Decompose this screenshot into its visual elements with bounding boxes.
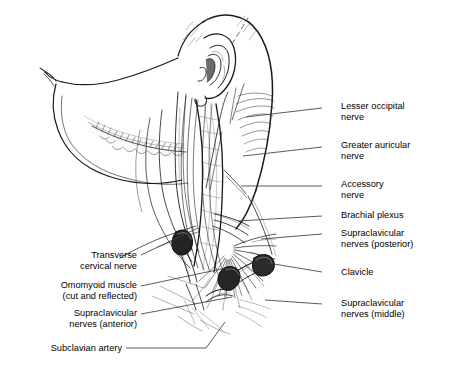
label-line: Lesser occipital	[341, 101, 405, 111]
label-subclavian-artery: Subclavian artery	[0, 343, 122, 354]
label-accessory-nerve: Accessorynerve	[341, 179, 384, 202]
label-clavicle: Clavicle	[341, 267, 373, 278]
label-line: (cut and reflected)	[63, 291, 137, 301]
jaw-and-chin-contour	[40, 58, 188, 184]
accessory-nerve-path	[224, 170, 247, 198]
dashed-guide-line	[232, 18, 248, 44]
label-line: nerves (middle)	[341, 309, 405, 319]
label-line: nerves (anterior)	[69, 319, 137, 329]
label-omohyoid-muscle: Omomyoid muscle(cut and reflected)	[0, 280, 137, 303]
label-line: nerves (posterior)	[341, 239, 413, 249]
label-line: Omomyoid muscle	[61, 280, 137, 290]
leader-lesser-occipital-nerve	[246, 108, 322, 117]
leader-supraclavicular-middle	[265, 300, 322, 304]
label-brachial-plexus: Brachial plexus	[341, 210, 404, 221]
label-line: Transverse	[91, 250, 137, 260]
label-transverse-cervical-nerve: Transversecervical nerve	[0, 250, 137, 273]
label-line: Supraclavicular	[341, 228, 404, 238]
label-line: Subclavian artery	[51, 343, 122, 353]
label-line: Clavicle	[341, 267, 373, 277]
label-line: nerve	[341, 151, 364, 161]
leader-brachial-plexus	[238, 216, 322, 221]
label-line: nerve	[341, 112, 364, 122]
leader-clavicle	[268, 263, 322, 272]
trapezius-border	[248, 196, 276, 256]
label-line: Supraclavicular	[341, 298, 404, 308]
label-supraclavicular-nerves-posterior: Supraclavicularnerves (posterior)	[341, 228, 413, 251]
label-line: Brachial plexus	[341, 210, 404, 220]
omohyoid-cut-stumps	[172, 230, 240, 310]
label-lesser-occipital-nerve: Lesser occipitalnerve	[341, 101, 405, 124]
leader-supraclavicular-anterior	[141, 297, 232, 314]
label-line: nerve	[341, 190, 364, 200]
shoulder-shading	[184, 300, 270, 331]
ear	[195, 34, 236, 106]
label-supraclavicular-nerves-anterior: Supraclavicularnerves (anterior)	[0, 308, 137, 331]
label-greater-auricular-nerve: Greater auricularnerve	[341, 140, 410, 163]
leader-lines	[126, 108, 322, 348]
label-line: cervical nerve	[80, 261, 137, 271]
label-supraclavicular-nerves-middle: Supraclavicularnerves (middle)	[341, 298, 405, 321]
anatomy-figure-page: Lesser occipitalnerve Greater auricularn…	[0, 0, 458, 369]
label-line: Accessory	[341, 179, 384, 189]
leader-omohyoid-muscle	[141, 268, 226, 286]
label-line: Supraclavicular	[74, 308, 137, 318]
label-line: Greater auricular	[341, 140, 410, 150]
leader-greater-auricular-nerve	[243, 147, 322, 156]
